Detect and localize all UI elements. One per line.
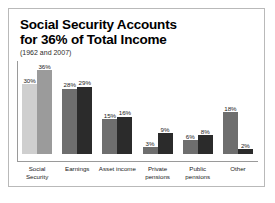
chart-title: Social Security Accounts for 36% of Tota… [20,17,250,47]
bar-value-label: 16% [119,109,131,116]
bar-item[interactable]: 9% [158,61,173,154]
bar-value-label: 36% [38,63,50,70]
chart-title-line-2: for 36% of Total Income [20,32,250,47]
bar-group: 18%2% [218,61,258,154]
x-axis-label: Publicpensions [178,165,218,180]
bar-value-label: 9% [161,126,170,133]
bar[interactable] [143,147,158,154]
bar-value-label: 29% [79,79,91,86]
bar-item[interactable]: 28% [62,61,77,154]
bar[interactable] [183,140,198,154]
bar-group: 15%16% [97,61,137,154]
bar[interactable] [77,87,92,154]
bar-value-label: 28% [64,81,76,88]
bar-value-label: 2% [241,142,250,149]
x-axis-label-line: Social Security [17,165,57,180]
bar-item[interactable]: 18% [223,61,238,154]
bar-item[interactable]: 3% [143,61,158,154]
bar-group: 30%36% [17,61,57,154]
plot-area: 30%36%28%29%15%16%3%9%6%8%18%2% [17,61,258,154]
bar-item[interactable]: 2% [238,61,253,154]
x-axis-label: Social Security [17,165,57,180]
bar-group: 28%29% [57,61,97,154]
chart-frame: Social Security Accounts for 36% of Tota… [8,8,265,187]
bar[interactable] [117,117,132,154]
bar-item[interactable]: 30% [22,61,37,154]
bar-group: 6%8% [178,61,218,154]
bar[interactable] [238,149,253,154]
bar-value-label: 3% [146,140,155,147]
x-axis-label-line: Other [218,165,258,173]
chart-subtitle: (1962 and 2007) [20,49,71,56]
bar-item[interactable]: 6% [183,61,198,154]
bar[interactable] [62,89,77,154]
x-axis-label-line: pensions [178,173,218,181]
bar-value-label: 30% [23,77,35,84]
x-axis-label: Asset income [97,165,137,173]
bar-item[interactable]: 29% [77,61,92,154]
bar[interactable] [37,70,52,154]
x-axis-label-line: Asset income [97,165,137,173]
x-axis-line [17,161,258,162]
x-axis-label-line: Public [178,165,218,173]
x-axis-label: Privatepensions [138,165,178,180]
bar-value-label: 8% [201,128,210,135]
bar-item[interactable]: 36% [37,61,52,154]
x-axis-label-line: Earnings [57,165,97,173]
bar-value-label: 6% [186,133,195,140]
bar-group: 3%9% [138,61,178,154]
bar[interactable] [158,133,173,154]
bar[interactable] [22,84,37,154]
bar[interactable] [198,135,213,154]
chart-title-line-1: Social Security Accounts [20,17,250,32]
x-axis-label: Other [218,165,258,173]
bar-item[interactable]: 15% [102,61,117,154]
bar[interactable] [223,112,238,154]
x-axis-label-line: pensions [138,173,178,181]
x-axis-label: Earnings [57,165,97,173]
bar-value-label: 18% [224,105,236,112]
x-axis-labels: Social SecurityEarningsAsset incomePriva… [17,165,258,189]
bar-value-label: 15% [104,112,116,119]
bar[interactable] [102,119,117,154]
bar-item[interactable]: 8% [198,61,213,154]
bar-item[interactable]: 16% [117,61,132,154]
x-axis-label-line: Private [138,165,178,173]
